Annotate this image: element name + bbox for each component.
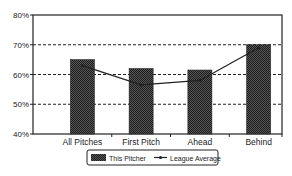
legend-label-league-average: League Average — [170, 155, 221, 163]
x-category-label: All Pitches — [63, 137, 103, 147]
y-tick-label: 50% — [13, 100, 29, 109]
x-category-label: First Pitch — [122, 137, 160, 147]
legend-bar-swatch-icon — [91, 154, 106, 161]
x-axis-labels: All PitchesFirst PitchAheadBehind — [63, 137, 273, 147]
legend: This Pitcher League Average — [87, 150, 221, 165]
y-tick-label: 60% — [13, 71, 29, 80]
y-tick-label: 40% — [13, 130, 29, 139]
x-category-label: Behind — [245, 137, 272, 147]
bar-all-pitches — [70, 60, 94, 134]
line-series-league-average — [81, 46, 260, 86]
y-tick-label: 80% — [13, 11, 29, 20]
y-tick-label: 70% — [13, 41, 29, 50]
x-category-label: Ahead — [188, 137, 213, 147]
league-average-line — [82, 48, 258, 85]
league-average-marker — [81, 64, 84, 67]
legend-label-this-pitcher: This Pitcher — [109, 155, 147, 162]
bar-first-pitch — [129, 69, 153, 134]
legend-line-marker-icon — [159, 156, 162, 159]
bar-behind — [247, 45, 271, 134]
league-average-marker — [198, 79, 201, 82]
league-average-marker — [140, 83, 143, 86]
chart: 40%50%60%70%80% All PitchesFirst PitchAh… — [0, 0, 292, 176]
league-average-marker — [257, 46, 260, 49]
